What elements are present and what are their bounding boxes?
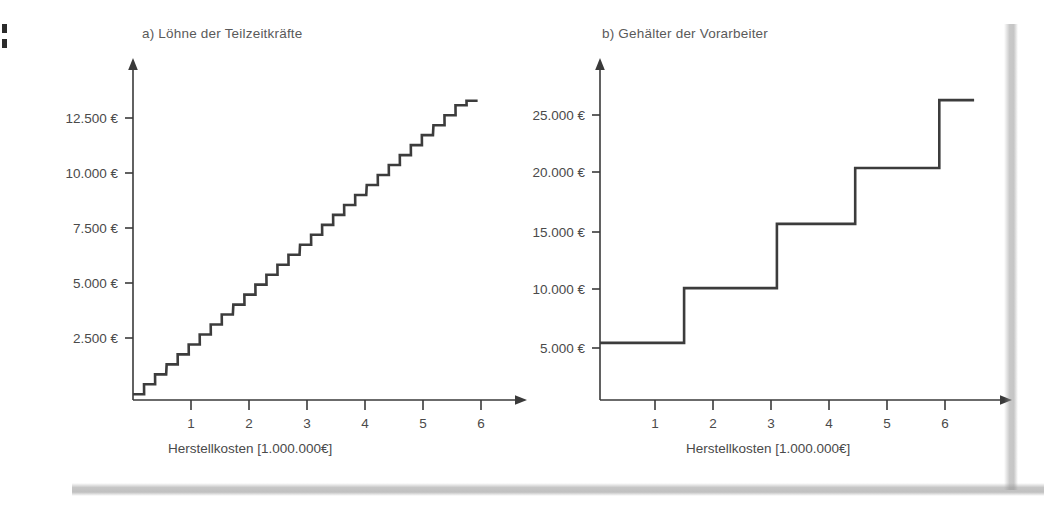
chart-b-xtick-label: 6 — [941, 416, 949, 431]
chart-a-xtick-label: 6 — [477, 416, 485, 431]
chart-b-xtick-label: 5 — [883, 416, 891, 431]
chart-panel-a: a) Löhne der Teilzeitkräfte 2.500 € 5.0 — [30, 0, 530, 470]
scan-artifact-mark — [2, 24, 7, 33]
chart-b-plot: 5.000 € 10.000 € 15.000 € 20.000 € 25.00… — [512, 0, 1022, 470]
chart-a-xtick-label: 5 — [419, 416, 427, 431]
chart-a-xtick-label: 1 — [187, 416, 195, 431]
chart-b-x-axis — [600, 395, 1012, 405]
figure-page: a) Löhne der Teilzeitkräfte 2.500 € 5.0 — [0, 0, 1044, 515]
chart-b-xlabel: Herstellkosten [1.000.000€] — [686, 441, 850, 456]
chart-b-xtick-label: 2 — [709, 416, 717, 431]
chart-b-x-ticks: 1 2 3 4 5 6 — [651, 400, 949, 431]
chart-a-ytick-label: 12.500 € — [65, 111, 118, 126]
scan-artifact-mark — [2, 39, 7, 48]
chart-a-ytick-label: 2.500 € — [73, 331, 119, 346]
chart-a-x-ticks: 1 2 3 4 5 6 — [187, 400, 485, 431]
chart-b-ytick-label: 25.000 € — [532, 108, 585, 123]
chart-b-xtick-label: 1 — [651, 416, 659, 431]
chart-b-ytick-label: 5.000 € — [540, 341, 586, 356]
chart-a-ytick-label: 7.500 € — [73, 221, 119, 236]
chart-b-ytick-label: 15.000 € — [532, 225, 585, 240]
chart-a-step-series — [133, 101, 478, 394]
chart-b-xtick-label: 4 — [825, 416, 833, 431]
chart-a-ytick-label: 10.000 € — [65, 166, 118, 181]
chart-b-ytick-label: 20.000 € — [532, 165, 585, 180]
chart-a-y-ticks: 2.500 € 5.000 € 7.500 € 10.000 € 12.500 … — [65, 111, 133, 346]
chart-b-xtick-label: 3 — [767, 416, 775, 431]
chart-b-y-ticks: 5.000 € 10.000 € 15.000 € 20.000 € 25.00… — [532, 108, 600, 356]
chart-a-xtick-label: 3 — [303, 416, 311, 431]
chart-a-xtick-label: 4 — [361, 416, 369, 431]
chart-a-x-axis — [133, 395, 527, 405]
chart-a-xtick-label: 2 — [245, 416, 253, 431]
chart-a-xlabel: Herstellkosten [1.000.000€] — [168, 441, 332, 456]
y-axis-arrow-icon — [128, 58, 138, 70]
page-shadow-right — [1004, 24, 1018, 490]
chart-b-ytick-label: 10.000 € — [532, 282, 585, 297]
chart-a-y-axis — [128, 58, 138, 400]
chart-a-plot: 2.500 € 5.000 € 7.500 € 10.000 € 12.500 … — [30, 0, 530, 470]
page-shadow-bottom — [72, 483, 1044, 496]
chart-b-step-series — [600, 100, 974, 343]
chart-panel-b: b) Gehälter der Vorarbeiter 5.000 € 10. — [512, 0, 1022, 470]
chart-a-ytick-label: 5.000 € — [73, 276, 119, 291]
y-axis-arrow-icon — [595, 58, 605, 70]
